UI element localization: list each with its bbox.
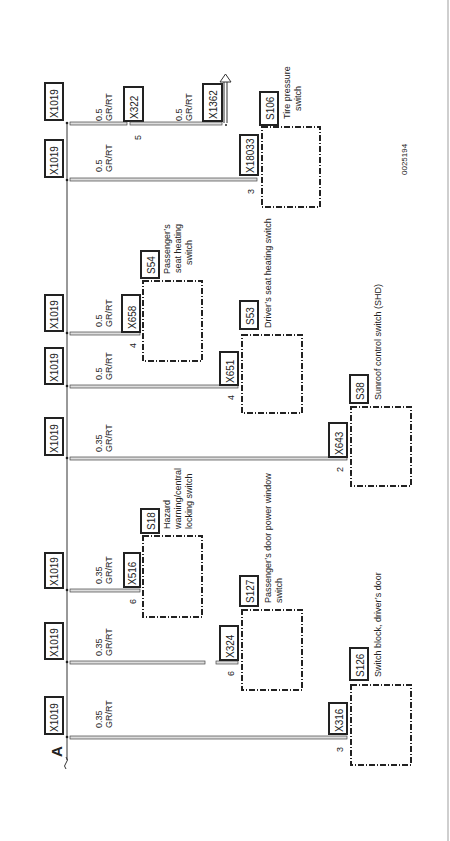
wire-continuation — [130, 122, 222, 125]
wire-size: 0.5 — [94, 314, 104, 327]
circuit-row8: X1019 0.35 GR/RT X316 3 S126 Switch bloc… — [45, 572, 411, 765]
connector-label: X651 — [225, 359, 236, 383]
component-label: Switch block, driver’s door — [373, 572, 383, 677]
junction-dot — [66, 661, 69, 664]
component-box — [242, 335, 302, 413]
wire-color: GR/RT — [104, 700, 114, 728]
wire-size: 0.5 — [94, 159, 104, 172]
connector-label: X316 — [334, 708, 345, 732]
component-box — [351, 407, 411, 486]
component-label: Passenger’s door power window — [263, 473, 273, 603]
bus-connector-label: X1019 — [49, 557, 60, 586]
wire-size: 0.5 — [94, 367, 104, 380]
component-label: Passenger’s — [162, 224, 172, 274]
wiring-diagram: A 0025194 X1019 0.5 GR/RT X322 5 0.5 GR/… — [0, 0, 450, 841]
wire — [70, 736, 347, 739]
component-id: S127 — [245, 579, 256, 603]
wire-color: GR/RT — [104, 299, 114, 327]
bus-connector-label: X1019 — [49, 353, 60, 382]
wire-size: 0.5 — [94, 108, 104, 121]
component-label: warning/central — [173, 468, 183, 530]
circuit-row6: X1019 0.35 GR/RT X516 6 S18 Hazard warni… — [45, 468, 202, 617]
wire-color: GR/RT — [104, 424, 114, 452]
figure-id: 0025194 — [400, 143, 409, 175]
pin-number: 3 — [335, 747, 345, 752]
component-label: switch — [274, 578, 284, 603]
component-label: seat heating — [173, 224, 183, 273]
connector-label: X643 — [334, 431, 345, 455]
wire-color: GR/RT — [104, 144, 114, 172]
bus-connector-label: X1019 — [49, 300, 60, 329]
pin-number: 5 — [133, 135, 143, 140]
reference-marker: A — [48, 746, 68, 769]
wire — [70, 178, 257, 181]
bus-connector-label: X1019 — [49, 424, 60, 453]
reference-label: A — [48, 746, 65, 757]
bus-connector-label: X1019 — [49, 703, 60, 732]
wire — [70, 457, 347, 460]
connector-label: X324 — [225, 634, 236, 658]
pin-number: 6 — [128, 599, 138, 604]
wire-size: 0.35 — [94, 638, 104, 656]
junction-dot — [66, 179, 69, 182]
junction-dot — [66, 457, 69, 460]
junction-dot — [66, 385, 69, 388]
component-label: locking switch — [184, 473, 194, 529]
pin-number: 2 — [335, 467, 345, 472]
circuit-row3: X1019 0.5 GR/RT X658 4 S54 Passenger’s s… — [45, 224, 202, 361]
component-id: S126 — [355, 653, 366, 677]
junction-dot — [66, 332, 69, 335]
wire-size: 0.35 — [94, 434, 104, 452]
component-label: switch — [293, 86, 303, 111]
wire-stub — [216, 661, 238, 664]
connector-label: X658 — [127, 305, 138, 329]
component-box — [242, 610, 302, 690]
bus-connector-label: X1019 — [49, 146, 60, 175]
pin-number: 4 — [226, 395, 236, 400]
bus-connector-label: X1019 — [49, 89, 60, 118]
wire-size: 0.5 — [174, 108, 184, 121]
wire-size: 0.35 — [94, 710, 104, 728]
component-id: S38 — [355, 382, 366, 400]
wire — [70, 385, 238, 388]
component-label: switch — [184, 240, 194, 265]
connector-label: X322 — [129, 95, 140, 119]
component-id: S106 — [265, 96, 276, 120]
component-label: Driver’s seat heating switch — [263, 218, 273, 328]
connector-label: X1362 — [208, 90, 219, 119]
circuit-row1: X1019 0.5 GR/RT X322 5 0.5 GR/RT X1362 — [45, 74, 231, 140]
connector-label: X516 — [127, 561, 138, 585]
component-box — [143, 536, 202, 617]
junction-dot — [66, 589, 69, 592]
component-box — [262, 127, 320, 207]
break-symbol-icon — [65, 757, 68, 769]
component-box — [143, 281, 202, 361]
component-id: S18 — [146, 512, 157, 530]
circuit-row2: X1019 0.5 GR/RT X18033 3 S106 Tire press… — [45, 66, 320, 207]
wire-size: 0.35 — [94, 566, 104, 584]
component-label: Hazard — [162, 500, 172, 529]
component-label: Tire pressure — [282, 66, 292, 119]
pin-number: 6 — [226, 671, 236, 676]
pin-number: 3 — [246, 189, 256, 194]
wire — [70, 661, 205, 664]
bus-connector-label: X1019 — [49, 628, 60, 657]
junction-dot — [66, 122, 69, 125]
wire-color: GR/RT — [104, 352, 114, 380]
wire-color: GR/RT — [104, 556, 114, 584]
component-id: S54 — [146, 256, 157, 274]
wire-color: GR/RT — [184, 93, 194, 121]
connector-label: X18033 — [245, 138, 256, 173]
component-id: S53 — [245, 307, 256, 325]
wire-color: GR/RT — [104, 628, 114, 656]
wire — [70, 589, 140, 592]
junction-dot — [66, 736, 69, 739]
component-label: Sunroof control switch (SHD) — [373, 284, 383, 400]
pin-number: 4 — [128, 343, 138, 348]
component-box — [351, 685, 411, 765]
wire — [70, 122, 127, 125]
wire-color: GR/RT — [104, 93, 114, 121]
